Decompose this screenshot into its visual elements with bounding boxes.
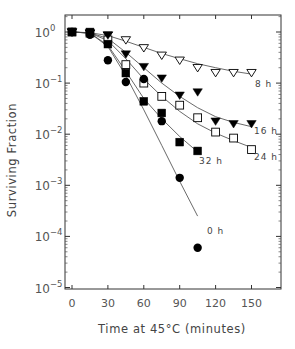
marker-circle-filled <box>122 78 130 86</box>
y-tick-exponent: −1 <box>50 74 63 84</box>
marker-triangle-down-open <box>211 69 220 76</box>
marker-square-open <box>158 92 166 100</box>
marker-triangle-down-open <box>175 57 184 64</box>
marker-circle-filled <box>140 75 148 83</box>
y-tick-label: 10 <box>35 128 50 142</box>
marker-square-open <box>176 101 184 109</box>
marker-square-filled <box>122 69 130 77</box>
marker-square-filled <box>104 40 112 48</box>
marker-triangle-down-filled <box>229 121 238 128</box>
marker-triangle-down-open <box>193 65 202 72</box>
marker-triangle-down-filled <box>211 118 220 125</box>
marker-triangle-down-open <box>157 52 166 59</box>
marker-square-filled <box>158 109 166 117</box>
marker-circle-filled <box>193 244 201 252</box>
fit-line-24h <box>72 32 252 148</box>
survival-curve-chart: 0306090120150 10010−110−210−310−410−5 8 … <box>0 0 295 349</box>
marker-triangle-down-filled <box>193 89 202 96</box>
y-tick-label: 10 <box>35 26 50 40</box>
marker-square-filled <box>176 138 184 146</box>
series-label-8h: 8 h <box>255 79 272 89</box>
x-tick-label: 60 <box>137 297 151 310</box>
x-axis-title: Time at 45°C (minutes) <box>97 322 246 336</box>
series-labels: 8 h16 h24 h32 h0 h <box>199 79 278 236</box>
y-tick-exponent: −4 <box>50 227 63 237</box>
series-label-16h: 16 h <box>254 126 278 136</box>
y-tick-label: 10 <box>35 230 50 244</box>
y-axis-ticks: 10010−110−210−310−410−5 <box>35 17 281 296</box>
marker-circle-filled <box>104 56 112 64</box>
marker-square-open <box>122 61 130 69</box>
marker-triangle-down-open <box>247 69 256 76</box>
x-axis-ticks: 0306090120150 <box>69 15 263 310</box>
series-label-0h: 0 h <box>207 226 224 236</box>
marker-triangle-down-open <box>229 69 238 76</box>
y-tick-label: 10 <box>35 282 50 296</box>
marker-circle-filled <box>68 28 76 36</box>
x-tick-label: 0 <box>69 297 76 310</box>
x-tick-label: 120 <box>205 297 226 310</box>
x-tick-label: 90 <box>173 297 187 310</box>
y-tick-exponent: 0 <box>50 23 55 33</box>
series-label-32h: 32 h <box>199 156 223 166</box>
y-tick-exponent: −3 <box>50 176 63 186</box>
marker-triangle-down-filled <box>121 51 130 58</box>
y-tick-exponent: −5 <box>50 279 63 289</box>
marker-circle-filled <box>176 174 184 182</box>
series-label-24h: 24 h <box>254 152 278 162</box>
marker-triangle-down-filled <box>157 75 166 82</box>
y-tick-label: 10 <box>35 77 50 91</box>
marker-triangle-down-filled <box>139 63 148 70</box>
marker-circle-filled <box>86 31 94 39</box>
marker-circle-filled <box>158 117 166 125</box>
x-tick-label: 30 <box>101 297 115 310</box>
marker-square-open <box>212 128 220 136</box>
marker-square-open <box>230 134 238 142</box>
y-tick-exponent: −2 <box>50 125 63 135</box>
data-markers <box>67 28 256 252</box>
marker-square-filled <box>140 97 148 105</box>
marker-square-filled <box>194 147 202 155</box>
y-axis-title: Surviving Fraction <box>5 103 19 217</box>
y-tick-label: 10 <box>35 179 50 193</box>
marker-square-open <box>194 114 202 122</box>
x-tick-label: 150 <box>241 297 262 310</box>
